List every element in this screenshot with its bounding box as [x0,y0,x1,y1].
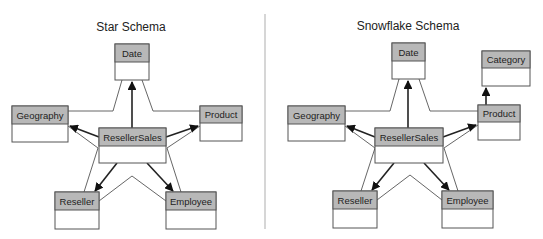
table-product[interactable]: Product [200,106,242,141]
table-product-label: Product [483,108,516,119]
table-reseller-sales-label: ResellerSales [380,132,439,143]
star-schema-diagram: Star Schema Date Geography Product [12,20,242,229]
relationship-arrow-reseller [372,163,394,190]
table-employee-label: Employee [446,195,488,206]
table-geography[interactable]: Geography [288,106,345,141]
star-outline-line [345,79,399,111]
table-date-label: Date [398,47,418,58]
star-outline-line [377,175,442,200]
star-outline-line [68,80,122,111]
star-outline-line [68,126,98,192]
star-schema-title: Star Schema [96,20,166,34]
table-date-label: Date [122,48,142,59]
table-reseller-sales[interactable]: ResellerSales [375,128,443,163]
table-geography[interactable]: Geography [12,106,68,142]
relationship-arrow-reseller [95,163,117,191]
table-reseller-label: Reseller [60,196,95,207]
relationship-arrow-product [166,126,198,137]
relationship-arrow-geography [70,126,99,137]
table-employee[interactable]: Employee [442,191,493,228]
table-product-label: Product [205,109,238,120]
table-reseller-sales-label: ResellerSales [103,132,162,143]
star-outline-line [142,80,200,111]
table-date[interactable]: Date [115,44,149,80]
table-geography-label: Geography [16,110,63,121]
snowflake-schema-diagram: Snowflake Schema Date Category Geography [288,19,530,228]
table-reseller-sales[interactable]: ResellerSales [99,128,166,163]
relationship-arrow-employee [424,163,449,190]
relationship-arrow-employee [147,163,173,191]
table-category-label: Category [487,54,526,65]
table-reseller[interactable]: Reseller [333,191,377,228]
table-reseller[interactable]: Reseller [55,192,99,229]
star-outline-line [167,126,200,192]
star-outline-line [419,79,478,111]
table-category[interactable]: Category [482,51,530,86]
table-employee[interactable]: Employee [166,192,216,229]
table-reseller-label: Reseller [338,195,373,206]
table-product[interactable]: Product [478,105,520,140]
table-geography-label: Geography [293,110,340,121]
snowflake-schema-title: Snowflake Schema [357,19,460,33]
relationship-arrow-product [443,125,476,137]
relationship-arrow-geography [347,126,375,137]
star-outline-line [99,176,166,201]
table-date[interactable]: Date [392,43,425,79]
table-employee-label: Employee [170,196,212,207]
schema-comparison-canvas: Star Schema Date Geography Product [0,0,543,239]
